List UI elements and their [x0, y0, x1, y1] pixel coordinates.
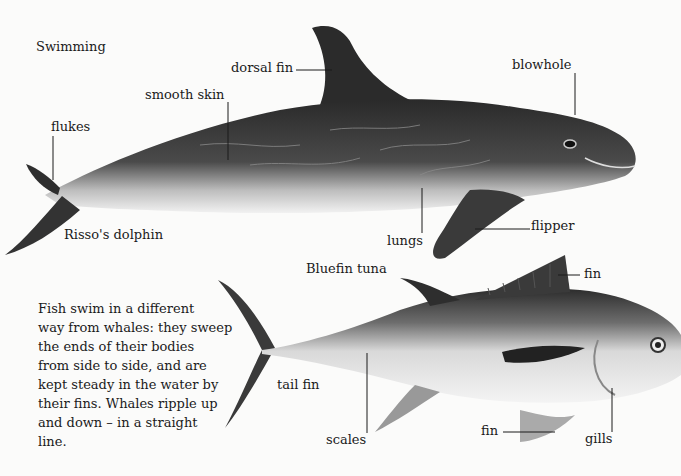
explanation-paragraph: Fish swim in a different way from whales…	[38, 299, 243, 451]
paragraph-line: their fins. Whales ripple up	[38, 394, 243, 413]
paragraph-line: and down – in a straight	[38, 413, 243, 432]
label-lungs: lungs	[387, 234, 423, 247]
paragraph-line: the ends of their bodies	[38, 337, 243, 356]
label-flipper: flipper	[531, 219, 574, 232]
dolphin-name: Risso's dolphin	[64, 228, 163, 241]
label-smooth-skin: smooth skin	[145, 88, 224, 101]
label-flukes: flukes	[51, 120, 90, 133]
paragraph-line: Fish swim in a different	[38, 299, 243, 318]
page-heading: Swimming	[36, 40, 106, 53]
label-fin-top: fin	[584, 267, 601, 280]
paragraph-line: way from whales: they sweep	[38, 318, 243, 337]
label-fin-bottom: fin	[481, 424, 498, 437]
label-tail-fin: tail fin	[277, 378, 319, 391]
label-blowhole: blowhole	[512, 58, 571, 71]
paragraph-line: from side to side, and are	[38, 356, 243, 375]
tuna-name: Bluefin tuna	[306, 262, 387, 275]
paragraph-line: line.	[38, 432, 243, 451]
label-scales: scales	[326, 433, 366, 446]
label-dorsal-fin: dorsal fin	[231, 61, 293, 74]
label-gills: gills	[585, 432, 612, 445]
paragraph-line: kept steady in the water by	[38, 375, 243, 394]
